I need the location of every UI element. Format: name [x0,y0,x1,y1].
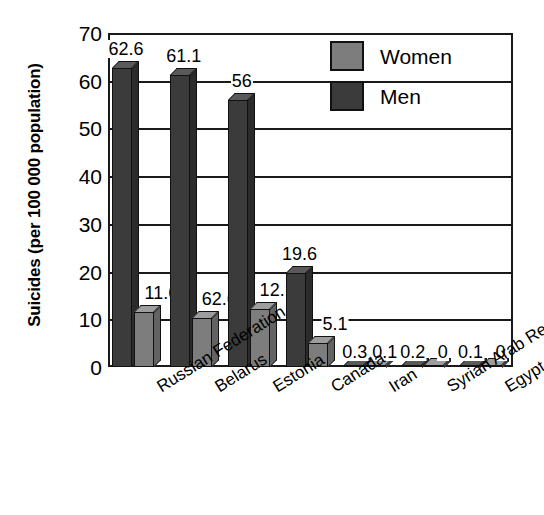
gridline [110,176,511,178]
x-axis-labels: Russian FederationBelarusEstoniaCanadaIr… [0,367,544,515]
legend-item-women[interactable]: Women [330,36,452,76]
y-tick-label: 50 [58,118,102,139]
plot-area [108,33,513,367]
legend-label-women: Women [380,46,452,67]
x-axis-label: Iran [386,381,395,395]
x-axis-label: Syrian Arab Republic [444,381,453,395]
x-axis-label: Egypt [502,381,511,395]
y-tick-label: 60 [58,70,102,91]
y-tick-label: 10 [58,309,102,330]
gridline [110,224,511,226]
x-axis-label: Belarus [212,381,221,395]
x-axis-label: Canada [328,381,337,395]
y-axis-title: Suicides (per 100 000 population) [18,5,52,385]
gridline [110,128,511,130]
y-tick-label: 40 [58,166,102,187]
gridline [110,272,511,274]
y-axis: 010203040506070 [50,33,102,367]
suicides-bar-chart: Suicides (per 100 000 population) 010203… [0,0,544,515]
x-axis-label: Estonia [270,381,279,395]
legend-item-men[interactable]: Men [330,76,452,116]
legend-swatch-women [330,41,364,71]
legend-label-men: Men [380,86,421,107]
y-tick-label: 70 [58,23,102,44]
y-tick-label: 30 [58,213,102,234]
legend: Women Men [330,36,452,116]
y-tick-label: 20 [58,261,102,282]
legend-swatch-men [330,81,364,111]
gridline [110,319,511,321]
x-axis-label: Russian Federation [154,381,163,395]
